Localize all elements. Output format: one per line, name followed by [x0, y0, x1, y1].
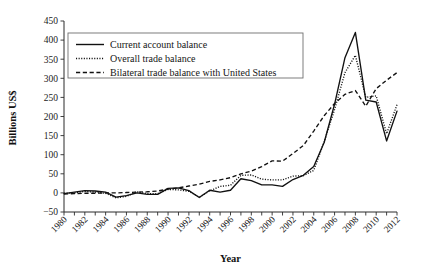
x-tick-label: 2000 — [257, 214, 277, 234]
x-tick-label: 2004 — [299, 214, 319, 234]
legend-label-1: Current account balance — [110, 39, 208, 50]
x-tick-label: 2002 — [278, 214, 298, 234]
y-tick-label: 100 — [44, 150, 59, 160]
x-tick-label: 2012 — [382, 214, 402, 234]
x-axis: 1980198219841986198819901992199419961998… — [49, 212, 402, 234]
x-tick-label: 1984 — [90, 214, 110, 234]
y-tick-label: 300 — [44, 74, 59, 84]
legend-label-3: Bilateral trade balance with United Stat… — [110, 67, 276, 78]
x-tick-label: 1990 — [153, 214, 173, 234]
y-tick-label: 150 — [44, 131, 59, 141]
x-tick-label: 1998 — [236, 214, 256, 234]
line-chart: 450400350300250200150100500−50 198019821… — [0, 0, 428, 271]
x-tick-label: 1992 — [174, 214, 194, 234]
x-tick-label: 1996 — [215, 214, 235, 234]
y-tick-label: 200 — [44, 112, 59, 122]
y-tick-label: 400 — [44, 35, 59, 45]
y-axis: 450400350300250200150100500−50 — [43, 16, 64, 217]
y-tick-label: −50 — [43, 207, 58, 217]
x-tick-label: 1982 — [70, 214, 90, 234]
y-tick-label: 450 — [44, 16, 59, 26]
chart-legend: Current account balanceOverall trade bal… — [68, 33, 303, 78]
y-tick-label: 250 — [44, 93, 59, 103]
x-tick-label: 2010 — [361, 214, 381, 234]
legend-label-2: Overall trade balance — [110, 53, 196, 64]
y-tick-label: 50 — [49, 169, 59, 179]
x-tick-label: 1994 — [195, 214, 215, 234]
x-tick-label: 2006 — [319, 214, 339, 234]
x-tick-label: 1986 — [111, 214, 131, 234]
chart-container: 450400350300250200150100500−50 198019821… — [0, 0, 428, 271]
series-line-3 — [64, 73, 397, 194]
x-tick-label: 1988 — [132, 214, 152, 234]
x-tick-label: 2008 — [340, 214, 360, 234]
y-axis-title: Billions US$ — [7, 90, 18, 145]
x-axis-title: Year — [220, 253, 241, 264]
y-tick-label: 350 — [44, 55, 59, 65]
y-tick-label: 0 — [53, 188, 58, 198]
